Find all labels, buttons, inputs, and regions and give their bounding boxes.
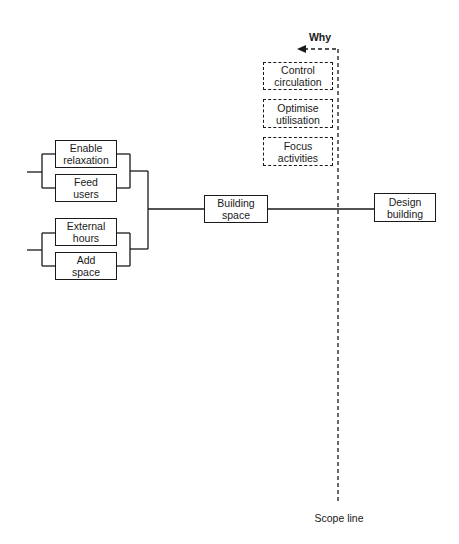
function-design-building: Design building	[374, 193, 436, 222]
box-text-line2: space	[72, 266, 100, 278]
box-text-line2: relaxation	[63, 154, 109, 166]
box-text-line2: space	[222, 209, 250, 221]
scope-function-control-circulation: Control circulation	[263, 62, 333, 90]
scope-line-label: Scope line	[304, 512, 374, 524]
scope-function-optimise-utilisation: Optimise utilisation	[263, 99, 333, 128]
box-text-line2: users	[73, 188, 99, 200]
why-arrow-icon	[297, 45, 306, 53]
why-label: Why	[304, 31, 336, 43]
box-text-line2: utilisation	[276, 114, 320, 126]
box-text-line1: External	[67, 220, 106, 232]
fast-diagram: Why Control circulation Optimise utilisa…	[0, 0, 459, 544]
box-text-line1: Add	[77, 254, 96, 266]
function-external-hours: External hours	[55, 218, 117, 246]
box-text-line2: hours	[73, 232, 99, 244]
box-text-line1: Building	[217, 197, 254, 209]
function-feed-users: Feed users	[55, 174, 117, 202]
box-text-line2: circulation	[274, 76, 321, 88]
scope-function-focus-activities: Focus activities	[263, 137, 333, 166]
box-text-line1: Optimise	[277, 102, 318, 114]
function-add-space: Add space	[55, 252, 117, 280]
box-text-line1: Enable	[70, 142, 103, 154]
function-enable-relaxation: Enable relaxation	[55, 140, 117, 168]
box-text-line1: Focus	[284, 140, 313, 152]
box-text-line2: activities	[278, 152, 318, 164]
box-text-line1: Feed	[74, 176, 98, 188]
box-text-line1: Control	[281, 64, 315, 76]
function-building-space: Building space	[204, 195, 268, 223]
box-text-line1: Design	[389, 196, 422, 208]
box-text-line2: building	[387, 208, 423, 220]
